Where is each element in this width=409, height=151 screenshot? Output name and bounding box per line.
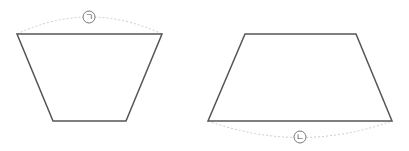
label-giyeok: ㄱ <box>85 12 93 22</box>
right-trapezoid <box>208 34 392 121</box>
diagram-canvas: ㄱ ㄴ <box>0 0 409 151</box>
left-trapezoid <box>17 34 162 121</box>
left-figure: ㄱ <box>17 11 162 121</box>
right-figure: ㄴ <box>208 34 392 143</box>
label-nieun: ㄴ <box>296 132 304 142</box>
